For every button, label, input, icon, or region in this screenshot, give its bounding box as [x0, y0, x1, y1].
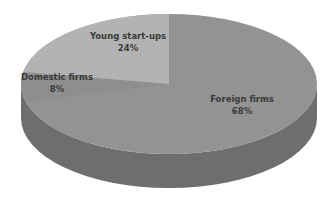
label-domestic-firms: Domestic firms 8%	[21, 71, 93, 95]
pie-chart	[0, 0, 333, 198]
label-foreign-firms: Foreign firms 68%	[210, 93, 274, 117]
label-domestic-firms-name: Domestic firms	[21, 71, 93, 83]
label-young-startups-name: Young start-ups	[90, 30, 166, 42]
label-foreign-firms-value: 68%	[210, 105, 274, 117]
label-domestic-firms-value: 8%	[21, 83, 93, 95]
label-young-startups-value: 24%	[90, 42, 166, 54]
label-foreign-firms-name: Foreign firms	[210, 93, 274, 105]
label-young-startups: Young start-ups 24%	[90, 30, 166, 54]
